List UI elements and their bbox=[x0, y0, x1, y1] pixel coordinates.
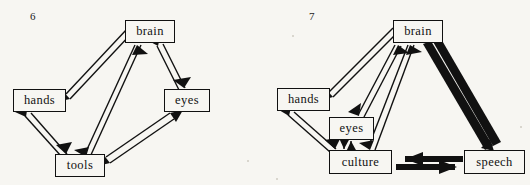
figure-canvas: 6 bbox=[0, 0, 530, 185]
node-brain[interactable]: brain bbox=[125, 20, 175, 43]
node-hands-label: hands bbox=[24, 94, 55, 107]
node-hands-label: hands bbox=[288, 93, 319, 106]
node-brain[interactable]: brain bbox=[393, 20, 443, 43]
node-tools[interactable]: tools bbox=[55, 154, 105, 177]
edge-brain-speech bbox=[422, 29, 501, 151]
edge-brain-eyes bbox=[348, 45, 409, 117]
node-speech[interactable]: speech bbox=[464, 150, 525, 174]
node-brain-label: brain bbox=[136, 25, 164, 38]
edge-brain-tools bbox=[74, 45, 148, 157]
node-hands[interactable]: hands bbox=[13, 89, 66, 112]
node-culture[interactable]: culture bbox=[329, 150, 392, 174]
node-culture-label: culture bbox=[342, 156, 380, 169]
node-hands[interactable]: hands bbox=[277, 88, 330, 111]
edge-eyes-tools bbox=[97, 110, 183, 166]
node-brain-label: brain bbox=[404, 25, 432, 38]
node-tools-label: tools bbox=[67, 159, 93, 172]
node-speech-label: speech bbox=[476, 156, 512, 169]
node-eyes-label: eyes bbox=[340, 122, 364, 135]
node-eyes[interactable]: eyes bbox=[329, 117, 374, 140]
edge-culture-speech bbox=[396, 152, 463, 174]
node-eyes-label: eyes bbox=[175, 94, 199, 107]
node-eyes[interactable]: eyes bbox=[164, 89, 210, 112]
panel-seven: 7 bbox=[265, 0, 530, 185]
panel-six: 6 bbox=[0, 0, 265, 185]
